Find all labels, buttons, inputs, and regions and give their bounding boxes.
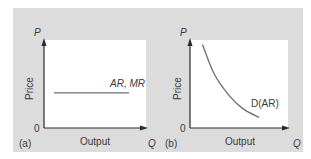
- x-axis-title-b: Output: [225, 136, 255, 147]
- panel-tag-b: (b): [165, 138, 177, 149]
- panel-tag-a: (a): [19, 138, 31, 149]
- plot-area-b: [190, 40, 288, 128]
- x-axis-letter-b: Q: [293, 138, 301, 149]
- origin-label-b: 0: [180, 123, 186, 134]
- y-axis-title-a: Price: [24, 77, 35, 100]
- origin-label-a: 0: [34, 123, 40, 134]
- figure: P Q 0 Output Price AR, MR (a) P Q 0 Outp…: [0, 0, 311, 159]
- y-axis-letter-b: P: [180, 27, 187, 38]
- y-axis-letter-a: P: [34, 27, 41, 38]
- series-label-b: D(AR): [251, 98, 279, 109]
- x-axis-letter-a: Q: [148, 138, 156, 149]
- series-label-a: AR, MR: [109, 78, 145, 89]
- x-axis-title-a: Output: [80, 136, 110, 147]
- y-axis-title-b: Price: [172, 77, 183, 100]
